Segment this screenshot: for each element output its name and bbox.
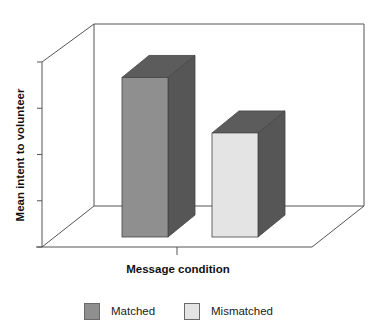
y-axis-ticks	[37, 62, 42, 247]
left-wall-bottom-edge	[42, 206, 94, 247]
bar-mismatched	[212, 111, 285, 237]
legend-label-matched: Matched	[111, 305, 155, 317]
left-wall-top-edge	[42, 24, 94, 62]
chart-3d-bar	[0, 0, 381, 336]
bar-front-1	[212, 133, 258, 237]
legend-item-matched: Matched	[84, 302, 155, 320]
bar-matched	[122, 55, 195, 237]
bar-front-0	[122, 77, 168, 237]
chart-frame	[36, 24, 364, 255]
x-axis-title: Message condition	[0, 263, 356, 275]
bar-side-0	[168, 55, 195, 237]
y-axis-title: Mean intent to volunteer	[14, 89, 26, 222]
legend-swatch-matched	[84, 303, 100, 320]
legend-item-mismatched: Mismatched	[184, 302, 273, 320]
legend-swatch-mismatched	[184, 303, 200, 320]
legend-label-mismatched: Mismatched	[211, 305, 273, 317]
floor-front-edge	[36, 206, 364, 247]
bars	[122, 55, 285, 237]
